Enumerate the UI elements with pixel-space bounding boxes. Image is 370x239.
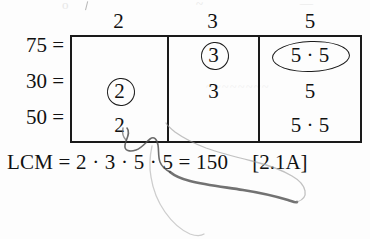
- table-column-3: 3 3: [169, 37, 260, 141]
- column-header-5: 5: [258, 8, 362, 35]
- column-header-row: 2 3 5: [70, 8, 362, 35]
- column-header-3: 3: [167, 8, 258, 35]
- table-cell-r0c2: 5 · 5: [260, 37, 360, 73]
- lcm-expression: LCM = 2 · 3 · 5 · 5 = 150: [7, 150, 228, 175]
- table-cell-r2c0: 2: [72, 107, 167, 143]
- table-cell-text: 3: [208, 43, 219, 67]
- table-cell-text: 2: [114, 113, 125, 137]
- prime-factor-table: 2 2 3 3: [70, 35, 362, 143]
- table-cell-r2c1: [169, 107, 258, 143]
- table-cell-r2c2: 5 · 5: [260, 107, 360, 143]
- table-cell-text: 3: [208, 79, 219, 103]
- row-label-30: 30 =: [26, 69, 64, 94]
- lcm-result-line: LCM = 2 · 3 · 5 · 5 = 150 [2.1A]: [7, 150, 308, 175]
- table-cell-text: 5 · 5: [291, 43, 330, 67]
- row-label-column: 75 = 30 = 50 =: [0, 35, 68, 143]
- row-label-75: 75 =: [26, 33, 64, 58]
- worksheet-page: o ~ — ~~~~~~~~ 2 3 5 75 = 30 = 50 = 2 2: [0, 0, 370, 239]
- table-cell-r0c0: [72, 37, 167, 73]
- table-column-2: 2 2: [72, 37, 169, 141]
- table-cell-text: 5: [305, 79, 316, 103]
- table-cell-r0c1: 3: [169, 37, 258, 73]
- table-cell-r1c1: 3: [169, 73, 258, 109]
- row-label-50: 50 =: [26, 105, 64, 130]
- table-cell-r1c2: 5: [260, 73, 360, 109]
- bleed-through-mark-left: o: [62, 0, 70, 13]
- table-column-5: 5 · 5 5 5 · 5: [260, 37, 360, 141]
- table-cell-text: 2: [114, 79, 125, 103]
- table-cell-r1c0: 2: [72, 73, 167, 109]
- exercise-reference: [2.1A]: [252, 150, 307, 175]
- table-cell-text: 5 · 5: [291, 113, 330, 137]
- column-header-2: 2: [70, 8, 167, 35]
